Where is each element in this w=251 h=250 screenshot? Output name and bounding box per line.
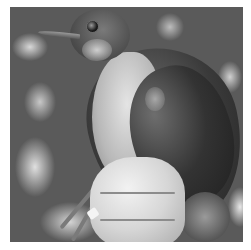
bird-photo (10, 7, 243, 242)
human-hand (90, 157, 185, 242)
bird-throat (82, 39, 112, 61)
wing-highlight (145, 87, 165, 111)
finger-crease (100, 219, 175, 221)
bird-eye (86, 20, 99, 33)
bird-feet (180, 192, 230, 242)
finger-crease (100, 192, 175, 194)
